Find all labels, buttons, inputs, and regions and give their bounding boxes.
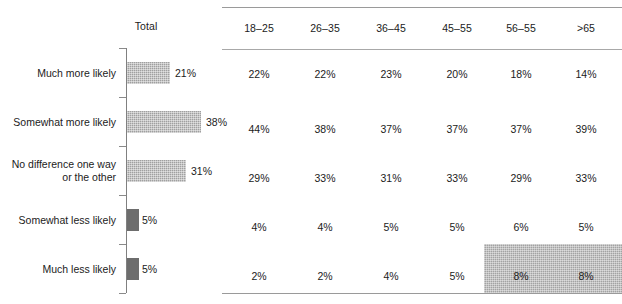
table-cell: 5% xyxy=(424,220,490,234)
total-column-header: Total xyxy=(104,20,188,32)
axis-tick xyxy=(119,146,126,147)
table-cell: 29% xyxy=(488,171,554,185)
bar-much-more-likely xyxy=(127,62,170,84)
table-cell: 37% xyxy=(358,122,424,136)
axis-tick xyxy=(119,48,126,49)
table-cell: 5% xyxy=(358,220,424,234)
bar-track: 38% xyxy=(127,99,222,145)
age-breakdown-table: 18–25 26–35 36–45 45–55 56–55 >65 22% 22… xyxy=(222,0,622,304)
column-header-36-45: 36–45 xyxy=(358,22,424,34)
column-header-over-65: >65 xyxy=(553,22,619,34)
bar-row: Much more likely 21% xyxy=(0,50,222,96)
table-top-rule xyxy=(222,7,622,8)
axis-tick xyxy=(119,293,126,294)
axis-tick xyxy=(119,195,126,196)
table-cell: 39% xyxy=(553,122,619,136)
bar-track: 21% xyxy=(127,50,222,96)
table-cell: 4% xyxy=(292,220,358,234)
bar-chart-panel: Total Much more likely 21% Somewhat more… xyxy=(0,0,222,304)
table-cell: 33% xyxy=(553,171,619,185)
column-header-18-25: 18–25 xyxy=(226,22,292,34)
table-cell: 23% xyxy=(358,67,424,81)
table-cell: 5% xyxy=(424,269,490,283)
bar-row: Somewhat less likely 5% xyxy=(0,197,222,243)
table-cell: 44% xyxy=(226,122,292,136)
table-cell: 29% xyxy=(226,171,292,185)
table-cell: 18% xyxy=(488,67,554,81)
table-cell: 33% xyxy=(424,171,490,185)
survey-figure: Total Much more likely 21% Somewhat more… xyxy=(0,0,622,304)
bar-track: 31% xyxy=(127,148,222,194)
bar-row: Somewhat more likely 38% xyxy=(0,99,222,145)
bar-value-label: 21% xyxy=(175,62,196,84)
bar-value-label: 31% xyxy=(191,160,212,182)
bar-track: 5% xyxy=(127,197,222,243)
column-header-56-55: 56–55 xyxy=(488,22,554,34)
table-cell: 14% xyxy=(553,67,619,81)
bar-value-label: 5% xyxy=(142,209,157,231)
table-cell: 5% xyxy=(553,220,619,234)
axis-tick xyxy=(119,244,126,245)
table-cell: 31% xyxy=(358,171,424,185)
table-cell: 33% xyxy=(292,171,358,185)
bar-somewhat-more-likely xyxy=(127,111,201,133)
table-cell: 6% xyxy=(488,220,554,234)
table-cell: 20% xyxy=(424,67,490,81)
bar-category-label: No difference one way or the other xyxy=(0,148,120,194)
table-cell: 37% xyxy=(424,122,490,136)
bar-category-label: Somewhat more likely xyxy=(0,99,120,145)
bar-track: 5% xyxy=(127,246,222,292)
column-header-26-35: 26–35 xyxy=(292,22,358,34)
axis-tick xyxy=(119,97,126,98)
bar-row: No difference one way or the other 31% xyxy=(0,148,222,194)
column-header-45-55: 45–55 xyxy=(424,22,490,34)
table-cell: 2% xyxy=(292,269,358,283)
bar-no-difference xyxy=(127,160,186,182)
table-cell: 22% xyxy=(226,67,292,81)
table-bottom-rule xyxy=(222,293,622,294)
table-cell: 4% xyxy=(226,220,292,234)
table-cell: 38% xyxy=(292,122,358,136)
bar-value-label: 5% xyxy=(142,258,157,280)
table-cell: 4% xyxy=(358,269,424,283)
bar-category-label: Somewhat less likely xyxy=(0,197,120,243)
bar-category-label: Much less likely xyxy=(0,246,120,292)
table-cell-highlighted: 8% xyxy=(488,269,554,283)
table-cell: 22% xyxy=(292,67,358,81)
table-header-rule xyxy=(222,49,622,50)
table-cell: 2% xyxy=(226,269,292,283)
bar-much-less-likely xyxy=(127,258,139,280)
bar-category-label: Much more likely xyxy=(0,50,120,96)
table-cell: 37% xyxy=(488,122,554,136)
table-cell-highlighted: 8% xyxy=(553,269,619,283)
bar-somewhat-less-likely xyxy=(127,209,139,231)
bar-row: Much less likely 5% xyxy=(0,246,222,292)
